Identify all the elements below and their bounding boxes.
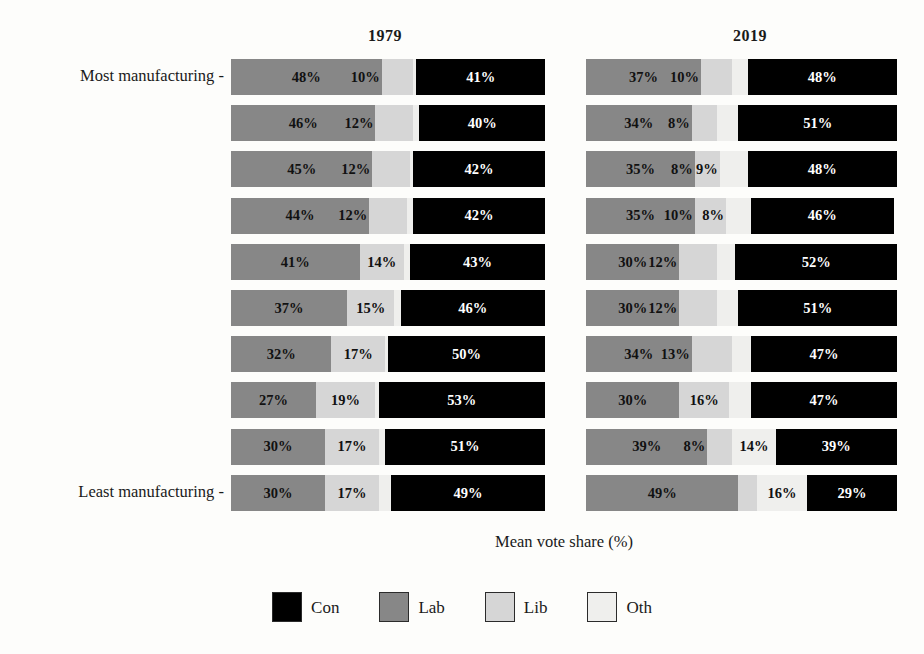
bar-segment-value: 10% bbox=[664, 208, 693, 223]
stacked-bar: 34%8%51% bbox=[586, 105, 897, 141]
bar-segment-value: 50% bbox=[452, 347, 481, 362]
bar-segment-con: 51% bbox=[385, 429, 545, 465]
bar-segment-value: 47% bbox=[809, 393, 838, 408]
bar-segment-lib: 12% bbox=[369, 198, 407, 234]
bar-segment-value: 27% bbox=[259, 393, 288, 408]
legend-item-con[interactable]: Con bbox=[272, 592, 339, 622]
bar-segment-lib: 10% bbox=[382, 59, 413, 95]
legend-swatch-oth-icon bbox=[587, 592, 617, 622]
bar-segment-lib: 12% bbox=[372, 151, 410, 187]
bar-segment-lab: 30% bbox=[586, 382, 679, 418]
bar-segment-con: 48% bbox=[748, 151, 897, 187]
stacked-bar: 49%16%29% bbox=[586, 475, 897, 511]
stacked-bar: 37%15%46% bbox=[231, 290, 545, 326]
bar-segment-value: 43% bbox=[463, 255, 492, 270]
stacked-bar: 27%19%53% bbox=[231, 382, 545, 418]
bar-segment-value: 52% bbox=[802, 255, 831, 270]
bar-row: 44%12%42% bbox=[231, 198, 545, 234]
bar-segment-value: 10% bbox=[351, 70, 380, 85]
stacked-bar: 30%16%47% bbox=[586, 382, 897, 418]
legend-item-lab[interactable]: Lab bbox=[379, 592, 444, 622]
bar-segment-value: 39% bbox=[632, 439, 661, 454]
bar-segment-lib: 12% bbox=[679, 244, 716, 280]
bar-segment-value: 37% bbox=[275, 301, 304, 316]
bar-segment-oth bbox=[379, 475, 392, 511]
legend-label-oth: Oth bbox=[626, 599, 652, 616]
bar-segment-lib: 8% bbox=[707, 429, 732, 465]
stacked-bar: 30%17%51% bbox=[231, 429, 545, 465]
panel-title-1979: 1979 bbox=[295, 27, 475, 45]
bar-row: 30%17%49% bbox=[231, 475, 545, 511]
bar-segment-value: 34% bbox=[624, 116, 653, 131]
legend-swatch-lab-icon bbox=[379, 592, 409, 622]
bar-segment-value: 17% bbox=[337, 439, 366, 454]
bar-row: 30%17%51% bbox=[231, 429, 545, 465]
legend-swatch-con-icon bbox=[272, 592, 302, 622]
bar-segment-value: 45% bbox=[287, 162, 316, 177]
bar-segment-value: 41% bbox=[466, 70, 495, 85]
bar-row: 37%10%48% bbox=[586, 59, 897, 95]
y-axis-label-least-manufacturing: Least manufacturing - bbox=[78, 482, 224, 502]
legend-item-oth[interactable]: Oth bbox=[587, 592, 652, 622]
bar-segment-value: 8% bbox=[671, 162, 693, 177]
stacked-bar: 44%12%42% bbox=[231, 198, 545, 234]
bar-segment-oth: 16% bbox=[757, 475, 807, 511]
bar-segment-lib: 14% bbox=[360, 244, 404, 280]
bar-segment-con: 47% bbox=[751, 336, 897, 372]
bar-segment-value: 30% bbox=[618, 255, 647, 270]
bar-segment-value: 51% bbox=[803, 116, 832, 131]
bar-row: 49%16%29% bbox=[586, 475, 897, 511]
bar-segment-lab: 37% bbox=[231, 290, 347, 326]
bar-segment-value: 39% bbox=[822, 439, 851, 454]
bar-segment-con: 49% bbox=[391, 475, 545, 511]
bar-segment-oth: 14% bbox=[732, 429, 776, 465]
legend-swatch-lib-icon bbox=[485, 592, 515, 622]
bar-segment-value: 48% bbox=[808, 162, 837, 177]
bar-row: 30%12%51% bbox=[586, 290, 897, 326]
x-axis-title: Mean vote share (%) bbox=[231, 532, 897, 552]
bar-segment-lib: 10% bbox=[701, 59, 732, 95]
bar-segment-value: 13% bbox=[661, 347, 690, 362]
bar-segment-value: 46% bbox=[289, 116, 318, 131]
bar-segment-value: 16% bbox=[690, 393, 719, 408]
bar-segment-value: 37% bbox=[629, 70, 658, 85]
bar-segment-oth bbox=[717, 105, 739, 141]
bar-segment-value: 46% bbox=[458, 301, 487, 316]
legend: ConLabLibOth bbox=[0, 592, 924, 622]
bar-row: 30%16%47% bbox=[586, 382, 897, 418]
bar-segment-lib: 17% bbox=[325, 429, 378, 465]
bar-segment-value: 8% bbox=[668, 116, 690, 131]
bar-segment-value: 14% bbox=[367, 255, 396, 270]
bar-segment-value: 41% bbox=[281, 255, 310, 270]
bar-segment-value: 49% bbox=[454, 486, 483, 501]
bar-segment-oth bbox=[717, 244, 736, 280]
bar-segment-con: 51% bbox=[738, 105, 897, 141]
bar-row: 46%12%40% bbox=[231, 105, 545, 141]
bar-segment-value: 19% bbox=[331, 393, 360, 408]
stacked-bar: 35%10%8%46% bbox=[586, 198, 894, 234]
bar-segment-lab: 41% bbox=[231, 244, 360, 280]
panel-1979: 48%10%41%46%12%40%45%12%42%44%12%42%41%1… bbox=[231, 58, 545, 520]
bar-segment-value: 32% bbox=[267, 347, 296, 362]
bar-segment-con: 40% bbox=[419, 105, 545, 141]
bar-segment-con: 29% bbox=[807, 475, 897, 511]
bar-segment-lib: 17% bbox=[325, 475, 378, 511]
bar-segment-value: 17% bbox=[344, 347, 373, 362]
bar-segment-value: 49% bbox=[648, 486, 677, 501]
bar-segment-value: 16% bbox=[767, 486, 796, 501]
legend-item-lib[interactable]: Lib bbox=[485, 592, 548, 622]
bar-segment-value: 44% bbox=[286, 208, 315, 223]
stacked-bar: 48%10%41% bbox=[231, 59, 545, 95]
bar-row: 39%8%14%39% bbox=[586, 429, 897, 465]
bar-segment-value: 51% bbox=[803, 301, 832, 316]
bar-row: 37%15%46% bbox=[231, 290, 545, 326]
bar-segment-lib: 12% bbox=[679, 290, 716, 326]
legend-label-con: Con bbox=[311, 599, 339, 616]
bar-segment-value: 48% bbox=[808, 70, 837, 85]
bar-segment-value: 42% bbox=[465, 208, 494, 223]
bar-row: 45%12%42% bbox=[231, 151, 545, 187]
bar-segment-value: 30% bbox=[618, 301, 647, 316]
bar-segment-lib: 17% bbox=[331, 336, 384, 372]
bar-segment-value: 10% bbox=[670, 70, 699, 85]
bar-segment-value: 48% bbox=[292, 70, 321, 85]
